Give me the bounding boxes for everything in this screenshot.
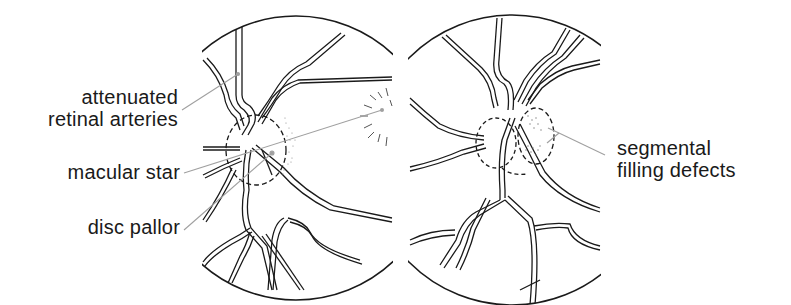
leader-macular [184,110,382,173]
right-vessels [410,18,600,305]
left-fundus [154,16,438,300]
leader-disc [184,153,272,230]
right-fundus [367,15,657,305]
label-line: macular star [30,161,180,183]
label-attenuated-retinal-arteries: attenuated retinal arteries [30,86,178,130]
label-line: retinal arteries [30,108,178,130]
leader-segmental-1 [559,133,605,155]
left-vessels [203,20,392,290]
label-segmental-filling-defects: segmental filling defects [617,137,736,181]
disc-outline-left [476,118,516,168]
leader-attenuated [182,74,238,110]
label-line: attenuated [30,86,178,108]
label-macular-star: macular star [30,161,180,183]
macular-star [360,88,392,146]
label-line: disc pallor [30,216,180,238]
label-line: segmental [617,137,736,159]
label-line: filling defects [617,159,736,181]
stipple [282,117,295,174]
label-disc-pallor: disc pallor [30,216,180,238]
